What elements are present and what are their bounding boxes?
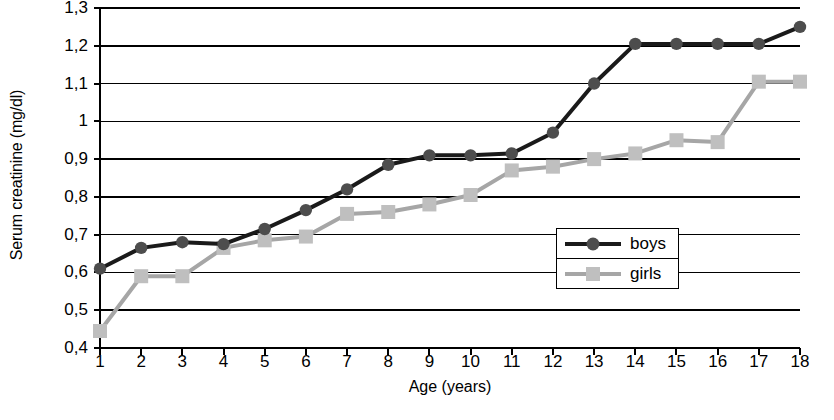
data-point-boys	[341, 183, 353, 195]
y-axis-title: Serum creatinine (mg/dl)	[0, 0, 34, 350]
y-axis-tick-labels: 0,40,50,60,70,80,911,11,21,3	[34, 0, 94, 360]
legend-label-boys: boys	[630, 234, 666, 254]
x-tick-label: 9	[425, 352, 434, 372]
x-tick-label: 2	[136, 352, 145, 372]
x-axis-title: Age (years)	[100, 378, 800, 396]
data-point-girls	[752, 75, 766, 89]
data-point-girls	[464, 188, 478, 202]
plot-svg	[100, 8, 800, 348]
y-tick-label: 1,3	[64, 0, 88, 18]
y-tick-label: 0,7	[64, 225, 88, 245]
x-tick-label: 17	[749, 352, 768, 372]
x-tick-label: 7	[342, 352, 351, 372]
data-point-boys	[176, 236, 188, 248]
y-tick-label: 0,5	[64, 300, 88, 320]
data-point-boys	[670, 38, 682, 50]
y-tick-label: 1	[79, 111, 88, 131]
data-point-boys	[506, 147, 518, 159]
legend-item-boys: boys	[557, 229, 678, 258]
x-axis-tick-labels: 123456789101112131415161718	[100, 352, 800, 378]
y-tick-label: 1,1	[64, 74, 88, 94]
x-tick-label: 18	[791, 352, 810, 372]
x-tick-label: 1	[95, 352, 104, 372]
data-point-girls	[669, 133, 683, 147]
y-tick-label: 0,8	[64, 187, 88, 207]
x-tick-label: 4	[219, 352, 228, 372]
x-tick-label: 12	[543, 352, 562, 372]
data-point-girls	[793, 75, 807, 89]
data-point-boys	[259, 223, 271, 235]
data-point-boys	[135, 242, 147, 254]
axis-lines	[94, 8, 800, 355]
data-point-girls	[340, 207, 354, 221]
square-marker-icon	[586, 267, 600, 281]
chart-legend: boys girls	[556, 228, 679, 289]
gridlines	[100, 8, 800, 348]
data-point-girls	[299, 230, 313, 244]
data-point-girls	[711, 135, 725, 149]
data-point-boys	[588, 77, 600, 89]
legend-swatch-girls	[565, 266, 621, 282]
chart-figure: Serum creatinine (mg/dl) 0,40,50,60,70,8…	[0, 0, 834, 420]
legend-swatch-boys	[565, 236, 621, 252]
data-point-girls	[381, 205, 395, 219]
data-point-boys	[794, 21, 806, 33]
series-line-girls	[100, 82, 800, 331]
data-point-girls	[258, 233, 272, 247]
data-point-girls	[422, 197, 436, 211]
data-point-girls	[505, 163, 519, 177]
data-point-girls	[628, 146, 642, 160]
data-point-boys	[94, 262, 106, 274]
data-point-girls	[134, 269, 148, 283]
series-girls	[93, 75, 807, 338]
data-point-girls	[546, 160, 560, 174]
x-tick-label: 13	[585, 352, 604, 372]
y-tick-label: 0,9	[64, 149, 88, 169]
x-tick-label: 3	[178, 352, 187, 372]
data-point-boys	[217, 238, 229, 250]
series-boys	[94, 21, 806, 275]
data-point-boys	[464, 149, 476, 161]
data-point-boys	[547, 126, 559, 138]
data-point-boys	[300, 204, 312, 216]
data-point-boys	[711, 38, 723, 50]
data-point-boys	[629, 38, 641, 50]
data-point-girls	[175, 269, 189, 283]
x-tick-label: 14	[626, 352, 645, 372]
y-tick-label: 0,4	[64, 338, 88, 358]
data-point-boys	[423, 149, 435, 161]
data-point-girls	[93, 324, 107, 338]
plot-area	[100, 8, 800, 348]
data-point-boys	[753, 38, 765, 50]
x-tick-label: 5	[260, 352, 269, 372]
y-tick-label: 1,2	[64, 36, 88, 56]
legend-item-girls: girls	[557, 258, 678, 288]
x-tick-label: 6	[301, 352, 310, 372]
x-tick-label: 10	[461, 352, 480, 372]
circle-marker-icon	[587, 237, 600, 250]
x-tick-label: 16	[708, 352, 727, 372]
x-tick-label: 8	[384, 352, 393, 372]
x-tick-label: 11	[503, 352, 521, 372]
data-series	[93, 21, 807, 338]
x-tick-label: 15	[667, 352, 686, 372]
y-tick-label: 0,6	[64, 262, 88, 282]
y-axis-title-text: Serum creatinine (mg/dl)	[8, 90, 26, 260]
legend-label-girls: girls	[630, 264, 661, 284]
data-point-girls	[587, 152, 601, 166]
series-line-boys	[100, 27, 800, 269]
data-point-boys	[382, 159, 394, 171]
